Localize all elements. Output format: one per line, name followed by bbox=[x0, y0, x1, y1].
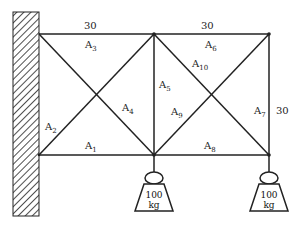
label-a7: A7 bbox=[254, 106, 266, 119]
label-a6: A6 bbox=[205, 40, 217, 53]
label-a3: A3 bbox=[85, 40, 97, 53]
dim-top-left: 30 bbox=[84, 21, 97, 31]
label-a10: A10 bbox=[192, 59, 208, 72]
weight-left-label: 100kg bbox=[142, 190, 166, 210]
label-a5: A5 bbox=[159, 80, 171, 93]
label-a9: A9 bbox=[171, 107, 183, 120]
wall-support bbox=[13, 12, 39, 216]
dim-right-height: 30 bbox=[276, 106, 289, 116]
dim-top-right: 30 bbox=[201, 21, 214, 31]
label-a4: A4 bbox=[122, 103, 134, 116]
label-a1: A1 bbox=[85, 141, 97, 154]
label-a2: A2 bbox=[45, 122, 57, 135]
label-a8: A8 bbox=[204, 141, 216, 154]
weight-right-label: 100kg bbox=[257, 190, 281, 210]
